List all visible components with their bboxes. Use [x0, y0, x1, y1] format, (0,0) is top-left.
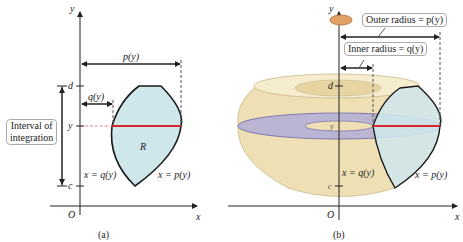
- axis-x-label-b: x: [454, 211, 460, 222]
- tick-d-a: d: [68, 80, 74, 91]
- curve-right-a: x = p(y): [157, 169, 191, 181]
- caption-a: (a): [98, 229, 109, 241]
- tick-y-b: y: [329, 122, 334, 131]
- tick-c-a: c: [68, 180, 73, 191]
- caption-b: (b): [333, 229, 345, 241]
- curve-left-a: x = q(y): [83, 169, 117, 181]
- region-label: R: [139, 141, 146, 152]
- interval-label-box: Interval of integration: [6, 119, 57, 145]
- tick-c-b: c: [328, 182, 332, 191]
- diagram-canvas: y x O d c y p(y) q(y) R x = q(y) x = p(y…: [0, 0, 463, 242]
- axis-y-label-b: y: [328, 3, 334, 14]
- origin-a: O: [68, 209, 75, 220]
- curve-left-b: x = q(y): [341, 167, 375, 179]
- curve-right-b: x = p(y): [414, 169, 448, 181]
- interval-line-1: Interval of: [10, 120, 53, 132]
- q-label-a: q(y): [88, 91, 105, 103]
- axis-x-label-a: x: [195, 211, 201, 222]
- rotation-icon: [330, 15, 352, 25]
- p-label-a: p(y): [122, 51, 140, 63]
- tick-y-a: y: [67, 120, 73, 131]
- interval-line-2: integration: [10, 132, 53, 144]
- inner-radius-label: Inner radius = q(y): [344, 42, 427, 56]
- axis-y-label-a: y: [69, 3, 75, 14]
- origin-b: O: [327, 209, 334, 220]
- outer-radius-label: Outer radius = p(y): [362, 13, 447, 27]
